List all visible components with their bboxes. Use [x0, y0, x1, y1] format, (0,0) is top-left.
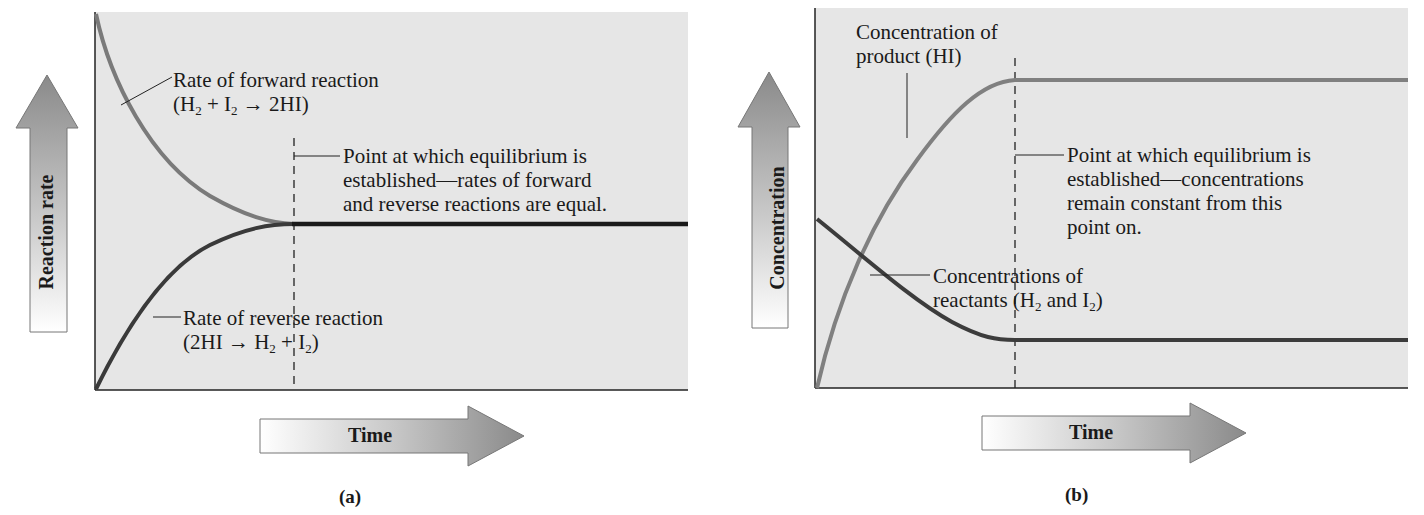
reverse-rate-label: Rate of reverse reaction (2HI → H2 + I2)	[183, 306, 383, 354]
equilibrium-annotation-b: Point at which equilibrium is establishe…	[1067, 143, 1311, 239]
caption-a: (a)	[339, 486, 361, 508]
time-axis-arrow-b	[982, 403, 1246, 463]
caption-b: (b)	[1065, 484, 1088, 506]
y-axis-label: Reaction rate	[34, 162, 58, 302]
figure-a: Reaction rate Time Rate of forward react…	[0, 0, 712, 515]
y-axis-label: Concentration	[765, 158, 789, 298]
forward-rate-label: Rate of forward reaction (H2 + I2 → 2HI)	[173, 68, 379, 116]
figure-b: Concentration Time Concentration of prod…	[712, 0, 1424, 515]
equilibrium-annotation-a: Point at which equilibrium is establishe…	[343, 144, 607, 216]
x-axis-label: Time	[1069, 421, 1113, 444]
reactants-label: Concentrations of reactants (H2 and I2)	[933, 264, 1103, 312]
product-label: Concentration of product (HI)	[856, 20, 998, 68]
x-axis-label: Time	[348, 424, 392, 447]
figure-b-graphics	[712, 0, 1424, 515]
